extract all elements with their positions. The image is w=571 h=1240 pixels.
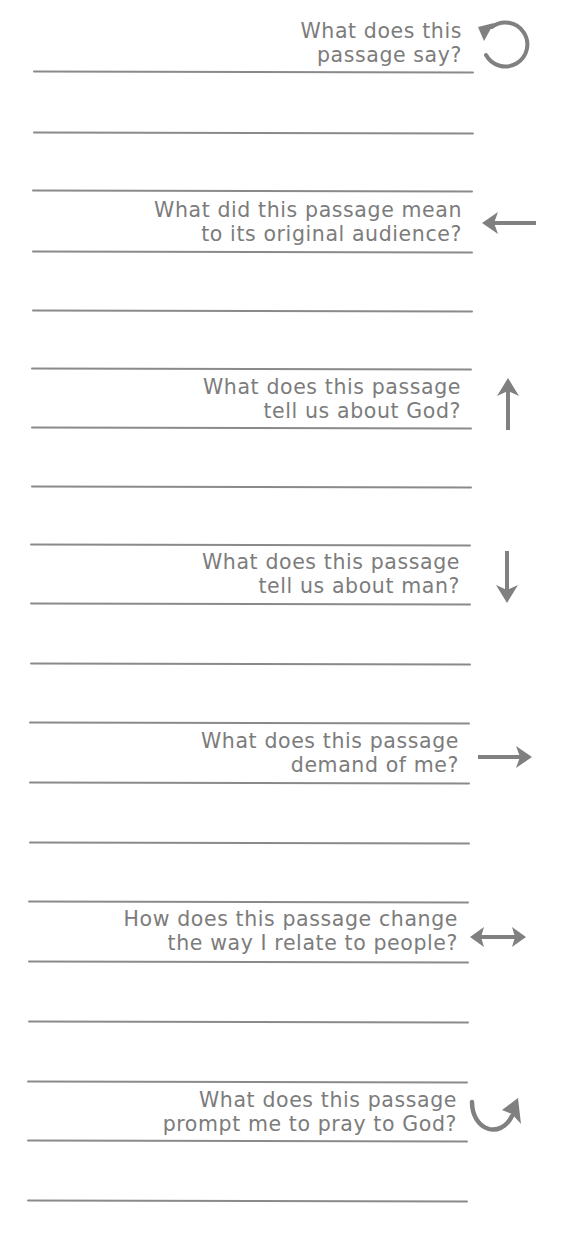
answer-line[interactable] <box>31 486 472 489</box>
arrow-up-icon <box>478 376 538 430</box>
answer-line[interactable] <box>27 1200 468 1203</box>
answer-line[interactable] <box>32 251 473 254</box>
question-line: How does this passage change <box>124 907 458 931</box>
answer-line[interactable] <box>32 190 473 193</box>
question-line: the way I relate to people? <box>124 931 458 955</box>
answer-line[interactable] <box>28 901 469 904</box>
answer-line[interactable] <box>27 1140 468 1143</box>
answer-line[interactable] <box>30 544 471 547</box>
question-line: to its original audience? <box>154 222 462 246</box>
question-about-man: What does this passage tell us about man… <box>202 550 460 598</box>
question-relate-to-people: How does this passage change the way I r… <box>124 907 458 955</box>
answer-line[interactable] <box>29 782 470 785</box>
question-line: What does this passage <box>201 729 459 753</box>
answer-line[interactable] <box>33 132 474 135</box>
answer-line[interactable] <box>29 722 470 725</box>
arrow-left-right-icon <box>468 910 528 964</box>
question-original-audience: What did this passage mean to its origin… <box>154 198 462 246</box>
question-pray-to-god: What does this passage prompt me to pray… <box>163 1088 457 1136</box>
question-demand-of-me: What does this passage demand of me? <box>201 729 459 777</box>
counterclockwise-circle-arrow-icon <box>472 15 532 69</box>
answer-line[interactable] <box>33 71 474 74</box>
answer-line[interactable] <box>28 961 469 964</box>
arrow-right-icon <box>476 730 536 784</box>
question-line: tell us about God? <box>203 399 461 423</box>
curved-arrow-up-right-icon <box>466 1090 526 1144</box>
question-line: What does this <box>300 19 462 43</box>
answer-line[interactable] <box>30 603 471 606</box>
answer-line[interactable] <box>27 1081 468 1084</box>
question-line: passage say? <box>300 43 462 67</box>
question-line: prompt me to pray to God? <box>163 1112 457 1136</box>
question-line: What does this passage <box>202 550 460 574</box>
question-line: demand of me? <box>201 753 459 777</box>
question-line: What did this passage mean <box>154 198 462 222</box>
answer-line[interactable] <box>29 842 470 845</box>
question-line: What does this passage <box>163 1088 457 1112</box>
question-passage-say: What does this passage say? <box>300 19 462 67</box>
question-about-god: What does this passage tell us about God… <box>203 375 461 423</box>
answer-line[interactable] <box>31 368 472 371</box>
answer-line[interactable] <box>32 310 473 313</box>
answer-line[interactable] <box>30 663 471 666</box>
question-line: tell us about man? <box>202 574 460 598</box>
answer-line[interactable] <box>28 1021 469 1024</box>
arrow-down-icon <box>477 551 537 605</box>
question-line: What does this passage <box>203 375 461 399</box>
arrow-left-icon <box>480 196 540 250</box>
answer-line[interactable] <box>31 427 472 430</box>
